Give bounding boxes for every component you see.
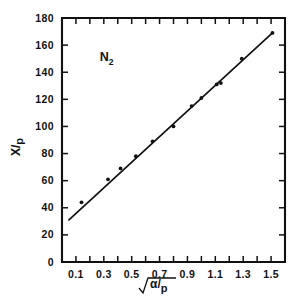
x-tick-label: 0.1 <box>68 268 84 280</box>
data-point <box>134 154 138 158</box>
x-tick-label: 0.3 <box>96 268 112 280</box>
data-point <box>80 200 84 204</box>
scatter-plot: 0.10.30.50.70.91.11.31.5 020406080100120… <box>0 0 308 306</box>
y-tick-label: 140 <box>35 66 54 78</box>
y-tick-label: 80 <box>42 147 54 159</box>
y-tick-label: 120 <box>35 93 54 105</box>
x-tick-label: 1.5 <box>263 268 279 280</box>
data-point <box>199 96 203 100</box>
figure-panel: 0.10.30.50.70.91.11.31.5 020406080100120… <box>0 0 308 306</box>
x-tick-label: 1.1 <box>207 268 223 280</box>
y-tick-label: 180 <box>35 12 54 24</box>
y-tick-label: 60 <box>42 174 54 186</box>
x-tick-label: 0.9 <box>180 268 196 280</box>
x-tick-label: 1.3 <box>235 268 251 280</box>
data-point <box>219 81 223 85</box>
data-point <box>271 31 275 35</box>
data-point <box>190 104 194 108</box>
x-tick-label: 0.5 <box>124 268 140 280</box>
data-point <box>172 125 176 129</box>
data-point <box>119 167 123 171</box>
data-point <box>106 177 110 181</box>
data-point <box>151 139 155 143</box>
y-tick-label: 0 <box>48 256 54 268</box>
y-tick-label: 160 <box>35 39 54 51</box>
data-point <box>215 83 219 87</box>
data-point <box>240 57 244 61</box>
y-tick-label: 40 <box>42 201 54 213</box>
y-tick-label: 100 <box>35 120 54 132</box>
y-tick-label: 20 <box>42 228 54 240</box>
